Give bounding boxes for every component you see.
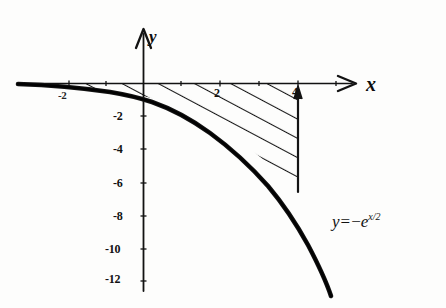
- x-tick-label-4: 4: [292, 86, 298, 98]
- x-axis-label: x: [366, 74, 376, 94]
- x-tick-label-2: 2: [214, 87, 220, 99]
- y-axis-label: y: [149, 28, 157, 45]
- y-tick-label-neg8: -8: [113, 210, 122, 222]
- graph-figure: -2 2 4 -2 -4 -6 -8 -10 -12 x y y=−ex/2: [0, 0, 446, 308]
- y-axis: [136, 29, 151, 291]
- equation-sign: −: [351, 212, 361, 231]
- x-tick-label-neg2: -2: [58, 90, 67, 101]
- graph-canvas: [0, 0, 446, 308]
- equation-label: y=−ex/2: [332, 213, 381, 230]
- equation-lhs: y: [332, 212, 340, 231]
- y-tick-label-neg10: -10: [105, 243, 120, 255]
- y-tick-label-neg2: -2: [113, 110, 122, 122]
- equation-exponent: x/2: [368, 211, 380, 222]
- y-tick-label-neg4: -4: [113, 143, 122, 155]
- y-tick-label-neg6: -6: [113, 177, 122, 189]
- equation-relation: =: [340, 212, 352, 231]
- y-tick-label-neg12: -12: [105, 273, 120, 285]
